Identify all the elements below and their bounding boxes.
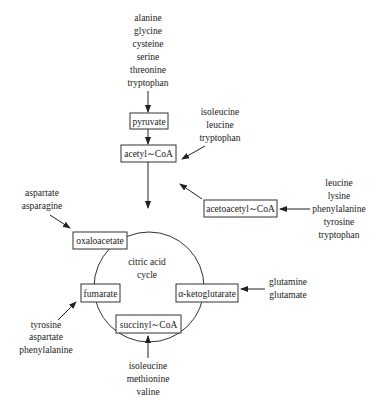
amino-acid-label: tryptophan bbox=[199, 133, 240, 143]
amino-acid-label: threonine bbox=[130, 65, 166, 75]
succinyl-coa-label: succinyl∼CoA bbox=[120, 320, 178, 330]
acetyl-coa-inputs: isoleucine leucine tryptophan bbox=[199, 107, 240, 143]
fumarate-inputs: tyrosine aspartate phenylalanine bbox=[19, 320, 72, 355]
amino-acid-label: leucine bbox=[325, 178, 352, 188]
amino-acid-label: tryptophan bbox=[318, 230, 359, 240]
pyruvate-label: pyruvate bbox=[132, 117, 165, 127]
amino-acid-label: aspartate bbox=[25, 188, 59, 198]
amino-acid-label: tryptophan bbox=[127, 78, 168, 88]
amino-acid-label: tyrosine bbox=[324, 217, 355, 227]
pyruvate-inputs: alanine glycine cysteine serine threonin… bbox=[127, 13, 168, 88]
amino-acid-label: glutamate bbox=[269, 290, 306, 300]
amino-acid-label: glycine bbox=[134, 26, 162, 36]
amino-acid-label: alanine bbox=[134, 13, 161, 23]
amino-acid-label: tyrosine bbox=[31, 320, 62, 330]
citric-acid-cycle-diagram: alanine glycine cysteine serine threonin… bbox=[0, 0, 371, 405]
cycle-label-line1: citric acid bbox=[128, 257, 166, 267]
amino-acid-label: isoleucine bbox=[129, 361, 168, 371]
arrow-to-acetyl-coa bbox=[182, 146, 205, 159]
succinyl-coa-inputs: isoleucine methionine valine bbox=[127, 361, 170, 397]
amino-acid-label: aspartate bbox=[29, 332, 63, 342]
amino-acid-label: lysine bbox=[328, 191, 351, 201]
arrow-acetoacetyl-to-acetyl-coa bbox=[180, 184, 202, 199]
amino-acid-label: phenylalanine bbox=[19, 345, 72, 355]
oxaloacetate-inputs: aspartate asparagine bbox=[22, 188, 63, 211]
oxaloacetate-label: oxaloacetate bbox=[76, 236, 123, 246]
alpha-ketoglutarate-label: α-ketoglutarate bbox=[178, 289, 236, 299]
amino-acid-label: serine bbox=[137, 52, 160, 62]
acetoacetyl-coa-inputs: leucine lysine phenylalanine tyrosine tr… bbox=[312, 178, 365, 240]
amino-acid-label: methionine bbox=[127, 374, 170, 384]
amino-acid-label: isoleucine bbox=[201, 107, 240, 117]
amino-acid-label: asparagine bbox=[22, 201, 63, 211]
cycle-label-line2: cycle bbox=[137, 270, 157, 280]
amino-acid-label: valine bbox=[136, 387, 159, 397]
amino-acid-label: phenylalanine bbox=[312, 204, 365, 214]
alpha-ketoglutarate-inputs: glutamine glutamate bbox=[269, 277, 307, 300]
acetoacetyl-coa-label: acetoacetyl∼CoA bbox=[206, 204, 275, 214]
amino-acid-label: cysteine bbox=[132, 39, 163, 49]
arrow-to-fumarate bbox=[58, 302, 76, 320]
acetyl-coa-label: acetyl∼CoA bbox=[124, 149, 173, 159]
arrow-to-oxaloacetate bbox=[50, 215, 70, 228]
fumarate-label: fumarate bbox=[84, 289, 118, 299]
amino-acid-label: leucine bbox=[206, 120, 233, 130]
amino-acid-label: glutamine bbox=[269, 277, 307, 287]
